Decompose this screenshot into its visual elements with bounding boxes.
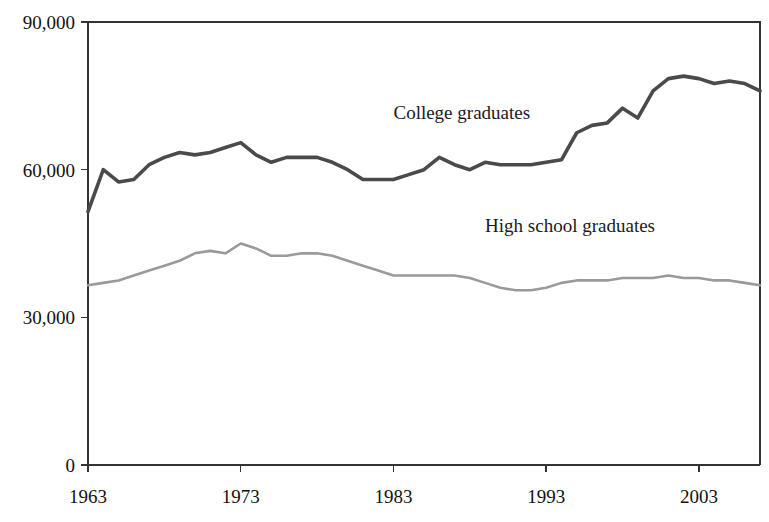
- x-axis-tick-label: 1963: [43, 487, 133, 506]
- axis-frame: [88, 22, 760, 465]
- x-axis-tick-label: 2003: [654, 487, 744, 506]
- y-axis-tick-label: 0: [66, 456, 76, 475]
- y-axis-tick-label: 90,000: [23, 13, 75, 32]
- line-college-graduates: [88, 76, 760, 211]
- series-label-high-school-graduates: High school graduates: [485, 216, 655, 235]
- chart-plot-area: [0, 0, 769, 522]
- x-axis-tick-label: 1983: [348, 487, 438, 506]
- series-label-college-graduates: College graduates: [393, 103, 530, 122]
- line-high-school-graduates: [88, 244, 760, 291]
- axis-ticks: [81, 22, 699, 472]
- y-axis-tick-label: 60,000: [23, 161, 75, 180]
- x-axis-tick-label: 1973: [196, 487, 286, 506]
- y-axis-tick-label: 30,000: [23, 308, 75, 327]
- x-axis-tick-label: 1993: [501, 487, 591, 506]
- chart-container: 030,00060,00090,000 19631973198319932003…: [0, 0, 769, 522]
